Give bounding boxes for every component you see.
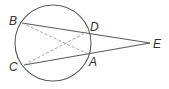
label-D: D <box>90 20 99 34</box>
geometry-diagram: B D E C A <box>0 0 169 89</box>
label-A: A <box>88 55 97 69</box>
circle <box>15 5 91 81</box>
label-C: C <box>9 60 18 74</box>
secant-B-E <box>22 23 150 43</box>
label-B: B <box>9 14 17 28</box>
label-E: E <box>153 37 162 51</box>
